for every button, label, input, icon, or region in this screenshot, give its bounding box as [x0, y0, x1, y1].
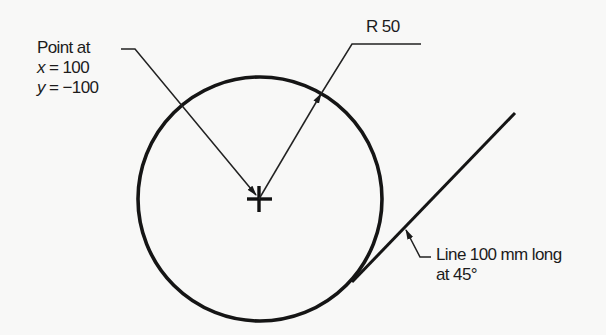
point-annotation: Point at x = 100 y = −100 — [37, 38, 98, 98]
radius-annotation: R 50 — [366, 17, 400, 37]
point-annotation-title: Point at — [37, 38, 98, 58]
line-annotation: Line 100 mm long at 45° — [436, 245, 562, 285]
line-annotation-length: Line 100 mm long — [436, 245, 562, 265]
point-annotation-y: y = −100 — [37, 78, 98, 98]
point-annotation-x: x = 100 — [37, 58, 98, 78]
line-annotation-angle: at 45° — [436, 265, 562, 285]
line-leader — [406, 230, 431, 257]
radius-leader-inner — [259, 94, 321, 199]
radius-leader-shelf — [321, 44, 421, 94]
